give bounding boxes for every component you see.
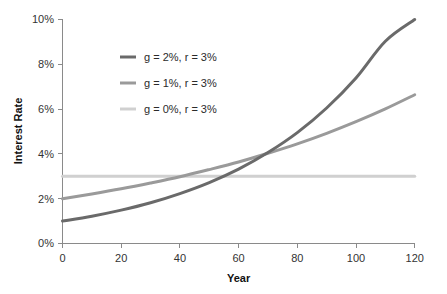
x-tick-label: 60 bbox=[232, 252, 244, 264]
x-tick-label: 20 bbox=[115, 252, 127, 264]
legend-label-series-1: g = 1%, r = 3% bbox=[144, 77, 217, 89]
x-axis-title: Year bbox=[227, 272, 251, 284]
legend-label-series-2: g = 0%, r = 3% bbox=[144, 103, 217, 115]
y-tick-marks bbox=[58, 20, 63, 244]
x-tick-label: 100 bbox=[347, 252, 365, 264]
y-tick-label: 8% bbox=[38, 58, 54, 70]
y-tick-label: 6% bbox=[38, 103, 54, 115]
y-axis-title: Interest Rate bbox=[12, 98, 24, 165]
y-tick-label: 10% bbox=[32, 13, 54, 25]
y-tick-label: 0% bbox=[38, 237, 54, 249]
y-tick-labels: 10% 8% 6% 4% 2% 0% bbox=[32, 13, 54, 249]
legend-label-series-0: g = 2%, r = 3% bbox=[144, 51, 217, 63]
line-chart-canvas: 10% 8% 6% 4% 2% 0% 0 20 40 60 80 100 120… bbox=[0, 0, 447, 294]
x-tick-label: 0 bbox=[59, 252, 65, 264]
x-tick-labels: 0 20 40 60 80 100 120 bbox=[59, 252, 423, 264]
series-group bbox=[63, 20, 415, 222]
series-line-1 bbox=[63, 95, 415, 199]
x-tick-label: 80 bbox=[291, 252, 303, 264]
x-tick-marks bbox=[63, 244, 415, 249]
y-tick-label: 4% bbox=[38, 148, 54, 160]
chart-figure: 10% 8% 6% 4% 2% 0% 0 20 40 60 80 100 120… bbox=[0, 0, 447, 294]
y-tick-label: 2% bbox=[38, 193, 54, 205]
chart-legend: g = 2%, r = 3% g = 1%, r = 3% g = 0%, r … bbox=[120, 51, 217, 115]
x-tick-label: 40 bbox=[174, 252, 186, 264]
x-tick-label: 120 bbox=[406, 252, 424, 264]
